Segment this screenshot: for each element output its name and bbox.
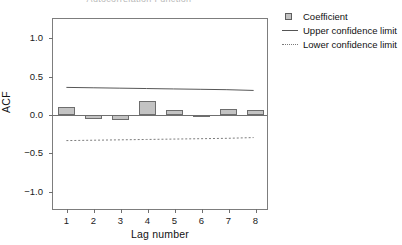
x-tick: 3 xyxy=(121,209,122,213)
y-tick: 0.5 xyxy=(49,77,53,78)
bar-lag-6 xyxy=(193,115,210,117)
legend-swatch-icon xyxy=(281,11,303,22)
bar-lag-2 xyxy=(85,115,102,119)
y-tick: 1.0 xyxy=(49,38,53,39)
x-tick: 5 xyxy=(175,209,176,213)
x-tick-label: 2 xyxy=(86,215,102,226)
legend-item-coefficient: Coefficient xyxy=(281,10,399,23)
legend-dashed-line-icon xyxy=(281,39,303,50)
y-tick-label: −0.5 xyxy=(24,147,43,158)
acf-chart-figure: Autocorrelation Function 1.00.50.0−0.5−1… xyxy=(0,0,402,245)
legend-label-upper-limit: Upper confidence limit xyxy=(303,25,397,37)
plot-inner: 1.00.50.0−0.5−1.0 12345678 xyxy=(53,19,267,209)
y-tick: −1.0 xyxy=(49,192,53,193)
chart-title: Autocorrelation Function xyxy=(0,0,278,4)
legend-item-lower-limit: Lower confidence limit xyxy=(281,38,399,51)
chart-legend: Coefficient Upper confidence limit Lower… xyxy=(281,10,399,52)
x-tick-label: 5 xyxy=(167,215,183,226)
x-tick: 7 xyxy=(229,209,230,213)
lower-confidence-limit-line xyxy=(66,138,253,141)
upper-confidence-limit-line xyxy=(66,87,253,90)
x-tick-label: 3 xyxy=(113,215,129,226)
legend-solid-line-icon xyxy=(281,25,303,36)
x-tick: 6 xyxy=(202,209,203,213)
x-tick: 2 xyxy=(94,209,95,213)
bar-lag-1 xyxy=(58,107,75,115)
x-tick: 8 xyxy=(256,209,257,213)
bar-lag-4 xyxy=(139,101,156,115)
x-tick: 4 xyxy=(148,209,149,213)
bar-lag-7 xyxy=(220,109,237,115)
y-tick-label: −1.0 xyxy=(24,186,43,197)
y-tick-label: 1.0 xyxy=(30,32,43,43)
bar-lag-5 xyxy=(166,110,183,115)
bar-lag-3 xyxy=(112,115,129,120)
x-tick-label: 7 xyxy=(221,215,237,226)
y-tick: −0.5 xyxy=(49,153,53,154)
legend-label-lower-limit: Lower confidence limit xyxy=(303,39,397,51)
bar-lag-8 xyxy=(247,110,264,115)
x-tick-label: 6 xyxy=(194,215,210,226)
x-tick-label: 8 xyxy=(248,215,264,226)
y-tick: 0.0 xyxy=(49,115,53,116)
plot-area: 1.00.50.0−0.5−1.0 12345678 xyxy=(52,18,268,210)
x-tick-label: 1 xyxy=(59,215,75,226)
legend-label-coefficient: Coefficient xyxy=(303,11,348,23)
x-tick: 1 xyxy=(67,209,68,213)
y-tick-label: 0.5 xyxy=(30,71,43,82)
legend-item-upper-limit: Upper confidence limit xyxy=(281,24,399,37)
y-tick-label: 0.0 xyxy=(30,109,43,120)
y-axis-title: ACF xyxy=(0,91,12,113)
x-tick-label: 4 xyxy=(140,215,156,226)
x-axis-title: Lag number xyxy=(52,228,268,240)
